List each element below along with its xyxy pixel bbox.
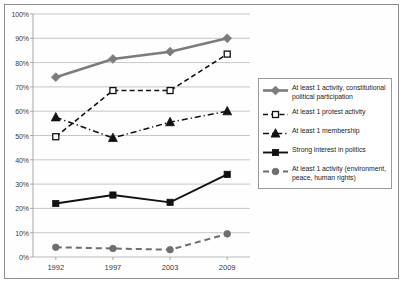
y-tick-label: 20%	[15, 205, 29, 212]
legend-item: At least 1 membership	[262, 127, 387, 139]
series-1	[51, 34, 231, 82]
legend-marker-icon	[262, 109, 289, 120]
y-tick-label: 0%	[19, 254, 29, 261]
legend-item-label: At least 1 activity (environment, peace,…	[292, 165, 387, 182]
y-tick-label: 10%	[15, 229, 29, 236]
legend-marker-icon	[262, 147, 289, 158]
plot-inner	[33, 14, 250, 257]
legend-item-label: At least 1 membership	[292, 127, 387, 136]
y-tick-label: 30%	[15, 181, 29, 188]
legend-marker-icon	[262, 128, 289, 139]
y-tick-label: 40%	[15, 156, 29, 163]
series-4	[53, 171, 231, 206]
y-tick-label: 100%	[11, 11, 29, 18]
x-tick-label: 2003	[162, 263, 179, 272]
chart-figure: 0%10%20%30%40%50%60%70%80%90%100% 199219…	[0, 0, 405, 285]
y-tick-label: 70%	[15, 83, 29, 90]
y-tick-label: 90%	[15, 35, 29, 42]
series-3	[51, 106, 231, 141]
legend-item: Strong interest in politics	[262, 146, 387, 158]
plot-area: 0%10%20%30%40%50%60%70%80%90%100% 199219…	[33, 14, 250, 257]
chart-legend: At least 1 activity, constitutional poli…	[258, 78, 392, 189]
series-2	[53, 51, 230, 140]
legend-item-label: At least 1 activity, constitutional poli…	[292, 84, 387, 101]
y-tick-label: 60%	[15, 108, 29, 115]
legend-item: At least 1 activity (environment, peace,…	[262, 165, 387, 182]
series-layer	[33, 14, 250, 257]
legend-item: At least 1 protest activity	[262, 108, 387, 120]
legend-item: At least 1 activity, constitutional poli…	[262, 84, 387, 101]
legend-marker-icon	[262, 166, 289, 177]
legend-marker-icon	[262, 85, 289, 96]
x-tick-label: 1997	[105, 263, 122, 272]
legend-item-label: Strong interest in politics	[292, 146, 387, 155]
y-tick-label: 50%	[15, 132, 29, 139]
x-tick-label: 1992	[47, 263, 64, 272]
y-tick-label: 80%	[15, 59, 29, 66]
legend-item-label: At least 1 protest activity	[292, 108, 387, 117]
series-5	[52, 231, 230, 253]
x-tick-label: 2009	[219, 263, 236, 272]
